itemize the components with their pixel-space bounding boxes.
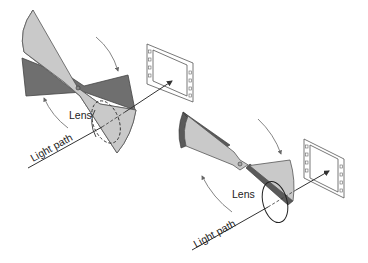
shutter-blade-dark	[22, 58, 135, 110]
rotation-arrow-icon	[258, 119, 281, 154]
light-path-label: Light path	[191, 217, 237, 250]
light-path-label: Light path	[28, 131, 74, 164]
panel-closed: Lens Light path	[179, 112, 344, 250]
rotation-arrow-icon	[96, 37, 118, 71]
film-frame-icon	[304, 139, 344, 198]
rotation-arrow-icon	[202, 176, 232, 212]
lens-label: Lens	[69, 109, 92, 121]
shutter-diagram: Lens Light path	[0, 0, 368, 263]
lens-label: Lens	[232, 188, 255, 200]
hub-icon	[76, 86, 80, 90]
hub-icon	[238, 162, 242, 166]
panel-open: Lens Light path	[22, 10, 193, 168]
rotation-arrow-icon	[44, 98, 68, 128]
